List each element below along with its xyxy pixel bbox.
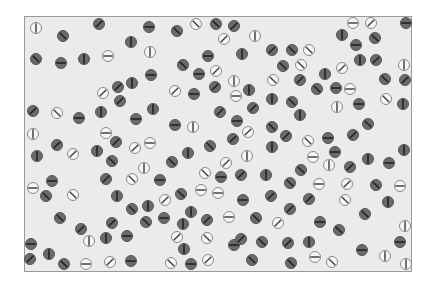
dark-circle-horizontal-icon	[26, 239, 37, 250]
dark-circle-diag-slash-icon	[101, 174, 112, 185]
dark-circle-diag-backslash-icon	[371, 180, 382, 191]
dark-circle-horizontal-icon	[238, 195, 249, 206]
dark-circle-diag-backslash-icon	[251, 213, 262, 224]
light-circle-diag-slash-icon	[160, 195, 171, 206]
dark-circle-diag-slash-icon	[229, 21, 240, 32]
dark-circle-vertical-icon	[183, 148, 194, 159]
light-circle-diag-backslash-icon	[304, 45, 315, 56]
light-circle-horizontal-icon	[314, 179, 325, 190]
light-circle-diag-backslash-icon	[68, 190, 79, 201]
light-circle-diag-slash-icon	[130, 143, 141, 154]
dark-circle-diag-backslash-icon	[141, 217, 152, 228]
light-circle-vertical-icon	[332, 102, 343, 113]
dark-circle-diag-backslash-icon	[296, 165, 307, 176]
dark-circle-diag-backslash-icon	[211, 19, 222, 30]
dark-circle-vertical-icon	[399, 145, 410, 156]
stimulus-field	[0, 0, 433, 294]
dark-circle-diag-slash-icon	[52, 140, 63, 151]
dark-circle-diag-slash-icon	[236, 170, 247, 181]
dark-circle-diag-backslash-icon	[178, 60, 189, 71]
dark-circle-diag-backslash-icon	[55, 213, 66, 224]
dark-circle-vertical-icon	[96, 107, 107, 118]
light-circle-diag-slash-icon	[342, 179, 353, 190]
dark-circle-diag-backslash-icon	[360, 209, 371, 220]
dark-circle-diag-slash-icon	[295, 75, 306, 86]
dark-circle-diag-backslash-icon	[312, 84, 323, 95]
light-circle-diag-backslash-icon	[52, 108, 63, 119]
light-circle-horizontal-icon	[224, 212, 235, 223]
dark-circle-vertical-icon	[237, 49, 248, 60]
dark-circle-horizontal-icon	[155, 175, 166, 186]
dark-circle-diag-slash-icon	[228, 134, 239, 145]
light-circle-diag-backslash-icon	[202, 233, 213, 244]
dark-circle-horizontal-icon	[131, 114, 142, 125]
light-circle-horizontal-icon	[345, 84, 356, 95]
light-circle-diag-slash-icon	[337, 63, 348, 74]
light-circle-diag-backslash-icon	[381, 94, 392, 105]
light-circle-diag-backslash-icon	[296, 60, 307, 71]
dark-circle-horizontal-icon	[401, 18, 412, 29]
dark-circle-vertical-icon	[92, 146, 103, 157]
dark-circle-horizontal-icon	[384, 158, 395, 169]
dark-circle-horizontal-icon	[216, 172, 227, 183]
light-circle-vertical-icon	[324, 160, 335, 171]
dark-circle-horizontal-icon	[122, 231, 133, 242]
dark-circle-diag-backslash-icon	[176, 189, 187, 200]
dark-circle-horizontal-icon	[357, 245, 368, 256]
light-circle-diag-backslash-icon	[268, 75, 279, 86]
dark-circle-diag-backslash-icon	[58, 31, 69, 42]
dark-circle-vertical-icon	[295, 110, 306, 121]
dark-circle-horizontal-icon	[146, 70, 157, 81]
dark-circle-vertical-icon	[44, 249, 55, 260]
light-circle-diag-backslash-icon	[303, 136, 314, 147]
dark-circle-diag-backslash-icon	[278, 61, 289, 72]
light-circle-diag-slash-icon	[203, 255, 214, 266]
dark-circle-horizontal-icon	[144, 22, 155, 33]
light-circle-diag-slash-icon	[68, 149, 79, 160]
dark-circle-diag-slash-icon	[267, 45, 278, 56]
dark-circle-vertical-icon	[267, 94, 278, 105]
dark-circle-diag-slash-icon	[111, 137, 122, 148]
dark-circle-diag-backslash-icon	[107, 156, 118, 167]
dark-circle-diag-slash-icon	[236, 234, 247, 245]
dark-circle-vertical-icon	[355, 55, 366, 66]
light-circle-diag-slash-icon	[243, 127, 254, 138]
dark-circle-vertical-icon	[178, 219, 189, 230]
light-circle-diag-slash-icon	[98, 88, 109, 99]
dark-circle-diag-backslash-icon	[380, 74, 391, 85]
dark-circle-diag-slash-icon	[283, 238, 294, 249]
light-circle-diag-backslash-icon	[191, 19, 202, 30]
light-circle-vertical-icon	[31, 23, 42, 34]
dark-circle-diag-slash-icon	[76, 224, 87, 235]
dark-circle-diag-backslash-icon	[285, 178, 296, 189]
dark-circle-diag-slash-icon	[345, 162, 356, 173]
dark-circle-diag-backslash-icon	[286, 258, 297, 269]
light-circle-diag-backslash-icon	[200, 168, 211, 179]
light-circle-vertical-icon	[28, 129, 39, 140]
dark-circle-vertical-icon	[148, 104, 159, 115]
dark-circle-vertical-icon	[398, 99, 409, 110]
dark-circle-horizontal-icon	[330, 147, 341, 158]
dark-circle-vertical-icon	[363, 154, 374, 165]
light-circle-horizontal-icon	[196, 185, 207, 196]
dark-circle-diag-slash-icon	[113, 82, 124, 93]
light-circle-diag-slash-icon	[219, 34, 230, 45]
dark-circle-vertical-icon	[179, 244, 190, 255]
dark-circle-diag-backslash-icon	[370, 33, 381, 44]
dark-circle-diag-slash-icon	[371, 55, 382, 66]
dark-circle-diag-backslash-icon	[334, 225, 345, 236]
dark-circle-vertical-icon	[127, 78, 138, 89]
dark-circle-diag-slash-icon	[202, 215, 213, 226]
dark-circle-horizontal-icon	[323, 133, 334, 144]
dark-circle-diag-backslash-icon	[267, 122, 278, 133]
dark-circle-horizontal-icon	[56, 58, 67, 69]
dark-circle-diag-backslash-icon	[205, 141, 216, 152]
light-circle-diag-slash-icon	[172, 232, 183, 243]
dark-circle-diag-slash-icon	[281, 131, 292, 142]
light-circle-diag-backslash-icon	[340, 195, 351, 206]
dark-circle-horizontal-icon	[354, 99, 365, 110]
light-circle-horizontal-icon	[81, 259, 92, 270]
light-circle-horizontal-icon	[395, 181, 406, 192]
dark-circle-diag-backslash-icon	[287, 45, 298, 56]
dark-circle-horizontal-icon	[159, 213, 170, 224]
